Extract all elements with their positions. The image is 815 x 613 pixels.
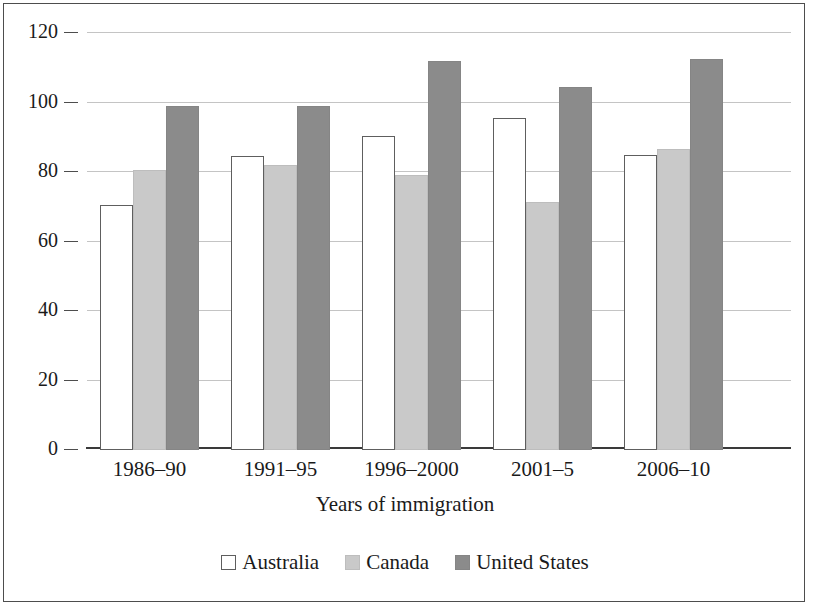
bar[interactable] [559,87,592,450]
legend-swatch-icon [455,555,470,570]
legend-item[interactable]: United States [455,550,589,574]
bar-group [231,32,330,450]
y-axis-tick-label: 100 [4,91,58,111]
legend-label: Canada [366,550,429,574]
legend-label: Australia [242,550,319,574]
y-axis-tick-mark [64,102,78,103]
legend-item[interactable]: Australia [221,550,319,574]
y-axis-tick-label: 120 [4,21,58,41]
bar[interactable] [493,118,526,450]
bar[interactable] [231,156,264,450]
legend-item[interactable]: Canada [345,550,429,574]
legend-label: United States [476,550,589,574]
bar-group [100,32,199,450]
y-axis-tick-mark [64,241,78,242]
bar[interactable] [362,136,395,450]
bar[interactable] [624,155,657,450]
y-axis-tick-label: 80 [4,160,58,180]
y-axis-tick-label: 40 [4,299,58,319]
x-axis-category-label: 2006–10 [596,456,751,482]
legend-swatch-icon [221,555,236,570]
bar[interactable] [133,170,166,450]
bar[interactable] [264,165,297,450]
plot-area [86,32,791,450]
chart-legend: AustraliaCanadaUnited States [4,550,806,574]
bar[interactable] [395,175,428,450]
bar-group [362,32,461,450]
y-axis-line [86,32,87,449]
y-axis-tick-label: 0 [4,438,58,458]
bar[interactable] [428,61,461,450]
bar[interactable] [297,106,330,450]
bar[interactable] [166,106,199,450]
y-axis-tick-mark [64,171,78,172]
x-axis-title: Years of immigration [4,491,806,517]
legend-swatch-icon [345,555,360,570]
chart-figure: Years of immigration AustraliaCanadaUnit… [3,3,805,602]
y-axis-tick-mark [64,32,78,33]
bar-group [624,32,723,450]
y-axis-tick-mark [64,449,78,450]
y-axis-tick-label: 60 [4,230,58,250]
bar[interactable] [526,202,559,450]
y-axis-tick-label: 20 [4,369,58,389]
y-axis-tick-mark [64,310,78,311]
bar[interactable] [690,59,723,450]
bar[interactable] [100,205,133,450]
y-axis-tick-mark [64,380,78,381]
bar[interactable] [657,149,690,450]
bar-group [493,32,592,450]
